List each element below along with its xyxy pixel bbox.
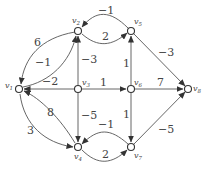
node-v4 (75, 144, 82, 151)
weight-v3-v1: −2 (42, 75, 58, 88)
weight-v6-v7: 1 (123, 108, 130, 121)
weight-v6-v5: 1 (123, 57, 130, 70)
edge-v7-v8 (134, 92, 185, 144)
weight-v2-v1: 6 (34, 36, 41, 49)
weight-v7-v4: −1 (98, 118, 114, 131)
node-label-v3: v3 (82, 78, 91, 88)
graph-svg: 6 −1 −2 8 3 −1 2 −3 1 −5 1 1 −3 7 −5 −1 … (0, 0, 208, 172)
node-label-v2: v2 (72, 16, 81, 26)
weight-v2-v5: 2 (102, 30, 109, 43)
weight-v4-v1: 8 (47, 106, 54, 119)
weight-v1-v4: 3 (27, 124, 34, 137)
graph-diagram: 6 −1 −2 8 3 −1 2 −3 1 −5 1 1 −3 7 −5 −1 … (0, 0, 208, 172)
weight-v3-v6: 1 (100, 76, 107, 89)
node-label-v1: v1 (5, 81, 13, 91)
edge-v1-v4 (20, 94, 73, 147)
weight-v5-v8: −3 (158, 46, 174, 59)
node-v1 (16, 86, 23, 93)
node-label-v6: v6 (134, 78, 143, 88)
node-label-v8: v8 (193, 84, 202, 94)
node-v3 (75, 86, 82, 93)
weight-v3-v4: −5 (81, 109, 97, 122)
edge-v7-v4 (82, 132, 128, 144)
weight-v3-v2: −3 (81, 53, 97, 66)
node-label-v7: v7 (134, 151, 143, 161)
weight-v7-v8: −5 (158, 123, 174, 136)
weight-v4-v7: 2 (102, 148, 109, 161)
weight-v6-v8: 7 (157, 76, 164, 89)
weight-v1-v2: −1 (35, 56, 51, 69)
node-v2 (75, 28, 82, 35)
node-label-v5: v5 (134, 17, 143, 27)
node-v7 (128, 144, 135, 151)
weight-v5-v2: −1 (98, 4, 114, 17)
node-v5 (128, 28, 135, 35)
node-label-v4: v4 (74, 152, 83, 162)
node-v8 (185, 86, 192, 93)
